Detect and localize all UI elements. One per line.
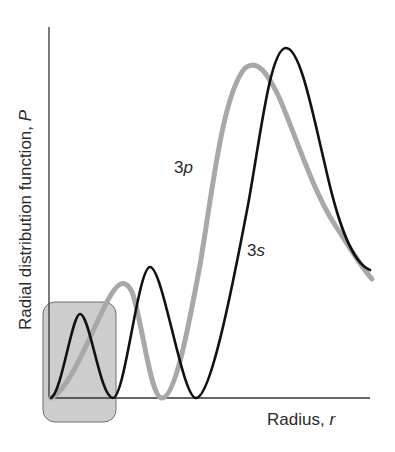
label-3s: 3s bbox=[247, 241, 265, 261]
y-axis-label-text: Radial distribution function, bbox=[16, 121, 35, 330]
y-axis-label: Radial distribution function, P bbox=[16, 110, 36, 330]
x-axis-label-text: Radius, bbox=[267, 410, 329, 429]
label-3p: 3p bbox=[174, 158, 193, 178]
y-axis-variable: P bbox=[16, 110, 35, 121]
x-axis-label: Radius, r bbox=[267, 410, 335, 430]
label-3s-letter: s bbox=[256, 241, 265, 260]
radial-distribution-chart bbox=[0, 0, 395, 452]
x-axis-variable: r bbox=[329, 410, 335, 429]
label-3p-letter: p bbox=[183, 158, 192, 177]
